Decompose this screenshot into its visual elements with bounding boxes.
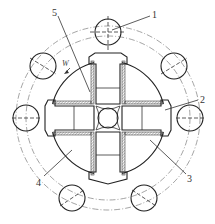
roller-lower-right bbox=[131, 185, 157, 211]
diagram-canvas: 1 2 3 4 5 W bbox=[0, 0, 215, 224]
roller-upper-right bbox=[161, 53, 187, 79]
rotation-label: W bbox=[62, 59, 70, 68]
callout-1: 1 bbox=[152, 9, 157, 20]
callout-5: 5 bbox=[52, 7, 57, 18]
callout-2: 2 bbox=[200, 94, 205, 105]
callout-4: 4 bbox=[36, 177, 41, 188]
callout-3: 3 bbox=[187, 173, 192, 184]
cross-slots bbox=[48, 58, 168, 178]
arrowhead-icon bbox=[64, 70, 69, 74]
roller-top bbox=[90, 16, 126, 50]
roller-upper-left bbox=[30, 53, 56, 79]
